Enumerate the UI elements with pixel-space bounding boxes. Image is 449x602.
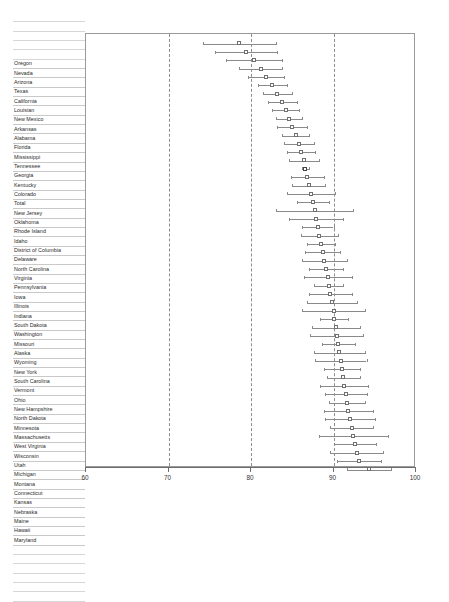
point-estimate-marker[interactable] [264, 75, 268, 79]
point-estimate-marker[interactable] [357, 459, 361, 463]
data-row[interactable] [86, 323, 414, 331]
data-row[interactable] [86, 65, 414, 73]
point-estimate-marker[interactable] [252, 58, 256, 62]
data-row[interactable] [86, 123, 414, 131]
data-row[interactable] [86, 374, 414, 382]
data-row[interactable] [86, 173, 414, 181]
point-estimate-marker[interactable] [302, 158, 306, 162]
point-estimate-marker[interactable] [319, 242, 323, 246]
point-estimate-marker[interactable] [334, 325, 338, 329]
point-estimate-marker[interactable] [299, 150, 303, 154]
data-row[interactable] [86, 265, 414, 273]
data-row[interactable] [86, 457, 414, 465]
data-row[interactable] [86, 140, 414, 148]
point-estimate-marker[interactable] [322, 259, 326, 263]
point-estimate-marker[interactable] [355, 451, 359, 455]
data-row[interactable] [86, 131, 414, 139]
point-estimate-marker[interactable] [313, 208, 317, 212]
data-row[interactable] [86, 382, 414, 390]
data-row[interactable] [86, 307, 414, 315]
data-row[interactable] [86, 81, 414, 89]
point-estimate-marker[interactable] [348, 417, 352, 421]
data-row[interactable] [86, 207, 414, 215]
data-row[interactable] [86, 332, 414, 340]
point-estimate-marker[interactable] [326, 275, 330, 279]
point-estimate-marker[interactable] [305, 175, 309, 179]
data-row[interactable] [86, 148, 414, 156]
point-estimate-marker[interactable] [275, 92, 279, 96]
data-row[interactable] [86, 165, 414, 173]
point-estimate-marker[interactable] [321, 250, 325, 254]
data-row[interactable] [86, 282, 414, 290]
point-estimate-marker[interactable] [336, 342, 340, 346]
data-row[interactable] [86, 56, 414, 64]
point-estimate-marker[interactable] [332, 317, 336, 321]
point-estimate-marker[interactable] [345, 401, 349, 405]
point-estimate-marker[interactable] [340, 367, 344, 371]
data-row[interactable] [86, 390, 414, 398]
point-estimate-marker[interactable] [346, 409, 350, 413]
point-estimate-marker[interactable] [244, 50, 248, 54]
data-row[interactable] [86, 181, 414, 189]
point-estimate-marker[interactable] [337, 350, 341, 354]
data-row[interactable] [86, 348, 414, 356]
point-estimate-marker[interactable] [294, 133, 298, 137]
data-row[interactable] [86, 399, 414, 407]
data-row[interactable] [86, 98, 414, 106]
data-row[interactable] [86, 449, 414, 457]
point-estimate-marker[interactable] [270, 83, 274, 87]
data-row[interactable] [86, 232, 414, 240]
data-row[interactable] [86, 115, 414, 123]
point-estimate-marker[interactable] [311, 200, 315, 204]
point-estimate-marker[interactable] [297, 142, 301, 146]
data-row[interactable] [86, 273, 414, 281]
point-estimate-marker[interactable] [284, 108, 288, 112]
table-row[interactable]: Maryland [13, 536, 85, 545]
data-row[interactable] [86, 73, 414, 81]
point-estimate-marker[interactable] [341, 375, 345, 379]
point-estimate-marker[interactable] [344, 392, 348, 396]
data-row[interactable] [86, 357, 414, 365]
point-estimate-marker[interactable] [303, 167, 307, 171]
point-estimate-marker[interactable] [237, 41, 241, 45]
data-row[interactable] [86, 248, 414, 256]
point-estimate-marker[interactable] [317, 234, 321, 238]
point-estimate-marker[interactable] [280, 100, 284, 104]
data-row[interactable] [86, 240, 414, 248]
data-row[interactable] [86, 298, 414, 306]
point-estimate-marker[interactable] [332, 309, 336, 313]
data-row[interactable] [86, 440, 414, 448]
point-estimate-marker[interactable] [328, 292, 332, 296]
point-estimate-marker[interactable] [353, 442, 357, 446]
data-row[interactable] [86, 257, 414, 265]
data-row[interactable] [86, 106, 414, 114]
point-estimate-marker[interactable] [309, 192, 313, 196]
point-estimate-marker[interactable] [342, 384, 346, 388]
data-row[interactable] [86, 190, 414, 198]
point-estimate-marker[interactable] [335, 334, 339, 338]
point-estimate-marker[interactable] [330, 300, 334, 304]
data-row[interactable] [86, 156, 414, 164]
data-row[interactable] [86, 223, 414, 231]
point-estimate-marker[interactable] [287, 117, 291, 121]
data-row[interactable] [86, 315, 414, 323]
data-row[interactable] [86, 290, 414, 298]
data-row[interactable] [86, 198, 414, 206]
point-estimate-marker[interactable] [327, 284, 331, 288]
data-row[interactable] [86, 40, 414, 48]
point-estimate-marker[interactable] [314, 217, 318, 221]
data-row[interactable] [86, 407, 414, 415]
data-row[interactable] [86, 424, 414, 432]
point-estimate-marker[interactable] [307, 183, 311, 187]
point-estimate-marker[interactable] [324, 267, 328, 271]
data-row[interactable] [86, 365, 414, 373]
point-estimate-marker[interactable] [351, 434, 355, 438]
data-row[interactable] [86, 215, 414, 223]
point-estimate-marker[interactable] [290, 125, 294, 129]
data-row[interactable] [86, 90, 414, 98]
point-estimate-marker[interactable] [339, 359, 343, 363]
point-estimate-marker[interactable] [259, 67, 263, 71]
data-row[interactable] [86, 340, 414, 348]
data-row[interactable] [86, 48, 414, 56]
data-row[interactable] [86, 415, 414, 423]
